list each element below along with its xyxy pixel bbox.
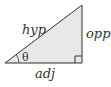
adjacent-label: adj — [35, 66, 55, 81]
right-triangle-diagram: hyp opp adj θ — [0, 0, 111, 87]
angle-label: θ — [22, 51, 29, 64]
opposite-label: opp — [86, 26, 111, 41]
hypotenuse-label: hyp — [22, 22, 47, 37]
